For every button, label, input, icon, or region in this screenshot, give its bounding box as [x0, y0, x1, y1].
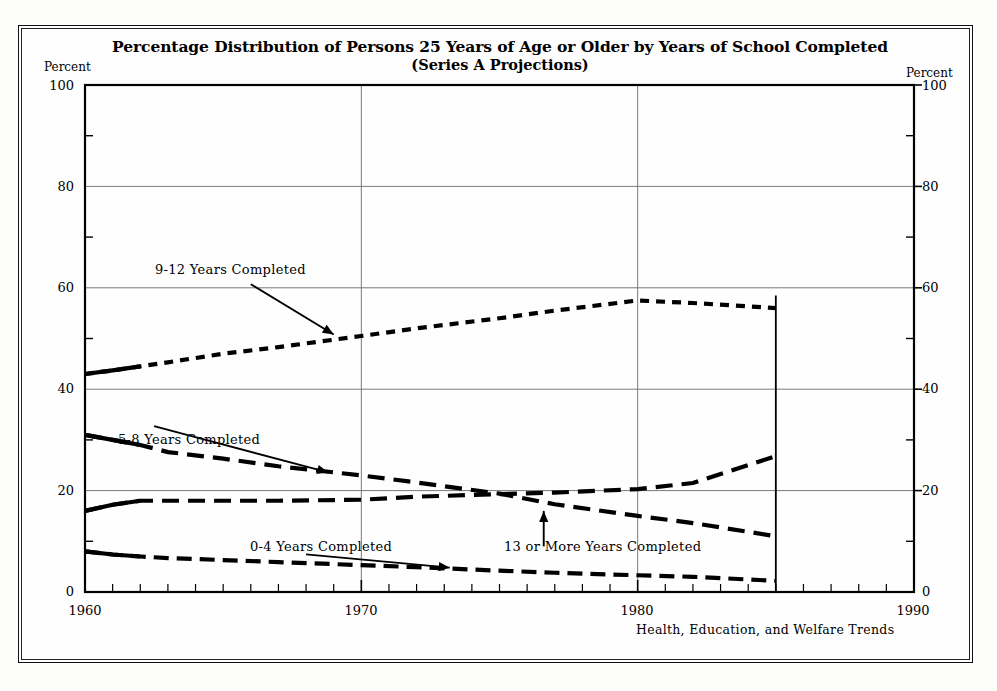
series-line-0: [85, 300, 776, 374]
plot-canvas: [0, 0, 997, 691]
chart-page: Percentage Distribution of Persons 25 Ye…: [0, 0, 997, 691]
source-note: Health, Education, and Welfare Trends: [636, 622, 894, 637]
annotation-arrow-0: [251, 284, 334, 334]
gridlines: [85, 85, 914, 592]
minor-tick-marks: [85, 85, 922, 592]
annotation-arrows: [154, 284, 548, 571]
series-lines: [85, 300, 776, 580]
annotation-arrow-1: [154, 426, 328, 472]
plot-frame: [85, 85, 914, 592]
